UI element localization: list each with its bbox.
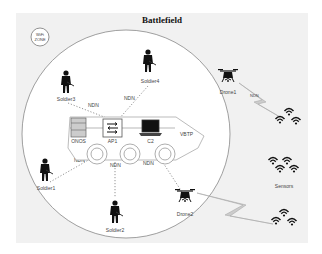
drone1-wireless-link [239, 83, 280, 117]
c2-label: C2 [147, 138, 154, 144]
link-label-soldier2: NDN [110, 162, 121, 168]
link-label-drone1: NDN [250, 93, 259, 98]
c2-laptop-icon [139, 120, 162, 136]
sensor-cluster-bottom [272, 210, 297, 226]
link-label-soldier4: NDN [124, 95, 135, 101]
sensors-label: Sensors [275, 183, 294, 189]
diagram-title: Battlefield [142, 15, 182, 25]
drone1-label: Drone1 [220, 89, 237, 95]
soldier4-label: Soldier4 [141, 78, 160, 84]
onos-server-icon [71, 118, 86, 137]
ap1-label: AP1 [108, 138, 118, 144]
soldier2-label: Soldier2 [106, 227, 125, 233]
link-label-soldier3: NDN [88, 102, 99, 108]
sensor-cluster-top [276, 109, 301, 125]
onos-label: ONOS [71, 138, 86, 144]
vehicle-label: VBTP [180, 131, 194, 137]
sensor-cluster-middle [269, 158, 299, 173]
link-label-drone2: NDN [143, 160, 154, 166]
wifi-zone-line2: ZONE [34, 37, 45, 42]
soldier3-label: Soldier3 [57, 96, 76, 102]
wifi-zone-badge: WiFi ZONE [31, 28, 49, 46]
ap1-switch-icon [103, 119, 122, 137]
drone1-icon [218, 69, 238, 82]
drone2-label: Drone2 [177, 211, 194, 217]
diagram-canvas: Battlefield WiFi ZONE NDN NDN NDN NDN ND… [0, 0, 322, 254]
soldier1-label: Soldier1 [37, 185, 56, 191]
